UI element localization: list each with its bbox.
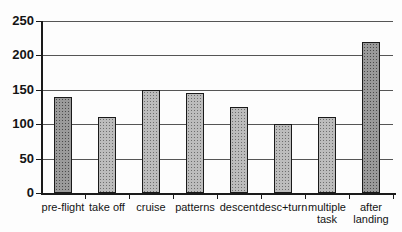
x-axis-tick [173,195,174,199]
x-axis-tick [393,195,394,199]
bar-pre-flight [54,97,72,193]
gridline [41,124,393,125]
bar-cruise [142,90,160,193]
bar-take-off [98,117,116,193]
gridline [41,21,393,22]
x-axis-tick [85,195,86,199]
x-axis-tick [261,195,262,199]
bar-multiple-task [318,117,336,193]
y-tick-label: 0 [6,186,34,200]
y-tick-label: 150 [6,83,34,97]
x-axis-line [41,193,396,195]
y-tick-label: 50 [6,152,34,166]
y-axis-line [41,21,43,193]
x-axis-tick [129,195,130,199]
y-tick-label: 100 [6,117,34,131]
bar-chart: 050100150200250pre-flighttake offcruisep… [0,0,402,232]
x-axis-tick [305,195,306,199]
gridline [41,159,393,160]
x-category-label: after landing [345,201,397,225]
gridline [41,55,393,56]
x-axis-tick [217,195,218,199]
y-tick-label: 250 [6,14,34,28]
x-axis-tick [349,195,350,199]
bar-patterns [186,93,204,193]
y-tick-label: 200 [6,48,34,62]
bar-desc-turn [274,124,292,193]
gridline [41,90,393,91]
bar-descent [230,107,248,193]
bar-after-landing [362,42,380,193]
